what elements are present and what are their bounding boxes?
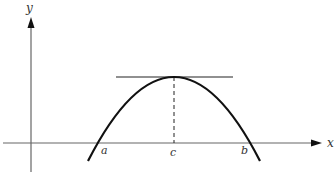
- x-axis-label: x: [327, 136, 334, 150]
- y-axis-label: y: [25, 1, 33, 15]
- point-label-a: a: [101, 144, 108, 157]
- point-label-b: b: [241, 144, 248, 157]
- point-label-c: c: [170, 146, 176, 159]
- y-axis-arrow-icon: [28, 17, 35, 28]
- x-axis-arrow-icon: [311, 140, 322, 147]
- parabola-diagram: x y a c b: [0, 0, 336, 177]
